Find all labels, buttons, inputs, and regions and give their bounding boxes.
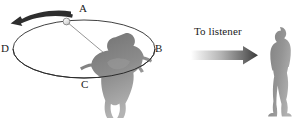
figure-canvas: [0, 0, 303, 130]
orbit-point-label-d: D: [1, 43, 9, 54]
physics-figure-doppler-whirling-source: A B C D To listener: [0, 0, 303, 130]
person-whirling-silhouette-icon: [80, 33, 152, 118]
orbit-point-label-a: A: [79, 3, 87, 14]
ball-on-string-icon: [63, 18, 70, 25]
orbit-point-label-b: B: [155, 43, 162, 54]
to-listener-label: To listener: [194, 26, 242, 37]
person-standing-silhouette-icon: [268, 27, 292, 116]
orbit-point-label-c: C: [81, 79, 88, 90]
arrow-right-gradient-icon: [191, 46, 258, 65]
string-line: [67, 22, 104, 53]
